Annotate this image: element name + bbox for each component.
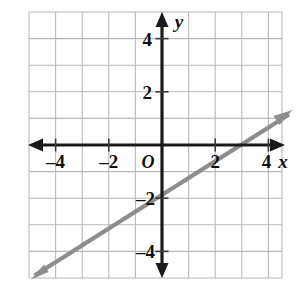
x-tick-label-pos4: 4 [262,151,272,172]
x-tick-label-neg2: –2 [98,151,118,172]
y-tick-label-neg4: –4 [135,241,156,262]
x-axis-label: x [277,151,288,172]
y-axis-label: y [173,11,184,32]
y-tick-label-pos4: 4 [143,29,153,50]
x-tick-label-pos2: 2 [210,151,220,172]
y-tick-label-neg2: –2 [135,188,155,209]
coordinate-plane-svg: –4 –2 2 4 O 4 2 –2 –4 y x [0,0,304,296]
origin-label: O [142,152,155,172]
coordinate-plane-figure: –4 –2 2 4 O 4 2 –2 –4 y x [0,0,304,296]
y-tick-label-pos2: 2 [143,82,153,103]
x-tick-label-neg4: –4 [45,151,66,172]
